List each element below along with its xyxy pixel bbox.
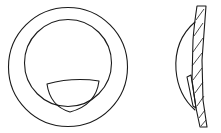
diagram-canvas	[0, 0, 221, 133]
front-view	[9, 8, 128, 127]
side-section-view	[176, 6, 207, 127]
outer-ring	[9, 8, 128, 127]
segment-insert	[47, 80, 99, 112]
inner-lens-circle	[25, 20, 112, 107]
lens-diagram	[0, 0, 221, 133]
